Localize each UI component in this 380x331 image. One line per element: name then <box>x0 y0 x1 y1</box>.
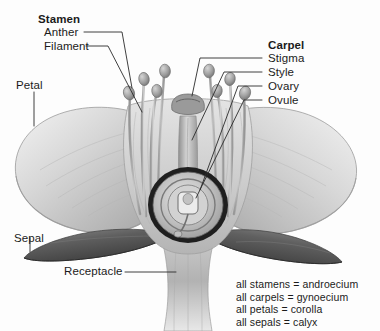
leader-filament <box>86 46 142 112</box>
leader-anther <box>84 32 132 88</box>
label-receptacle: Receptacle <box>64 265 123 278</box>
label-ovary: Ovary <box>268 80 299 93</box>
legend-line-corolla: all petals = corolla <box>236 303 358 316</box>
label-carpel: Carpel <box>268 39 304 52</box>
legend-line-androecium: all stamens = androecium <box>236 278 358 291</box>
label-petal: Petal <box>16 79 43 92</box>
stigma-shape <box>172 94 205 115</box>
legend-line-gynoecium: all carpels = gynoecium <box>236 291 358 304</box>
sepal-left-shape <box>24 229 162 261</box>
label-stamen: Stamen <box>38 13 80 26</box>
label-ovule: Ovule <box>268 94 299 107</box>
label-filament: Filament <box>44 40 89 53</box>
ovary-shape <box>148 167 228 243</box>
label-stigma: Stigma <box>268 52 304 65</box>
label-style: Style <box>268 66 294 79</box>
sepal-right-shape <box>212 230 342 264</box>
terminology-legend: all stamens = androecium all carpels = g… <box>236 278 358 328</box>
flower-anatomy-figure: Stamen Anther Filament Petal Sepal Recep… <box>0 0 380 331</box>
label-sepal: Sepal <box>14 232 44 245</box>
legend-line-calyx: all sepals = calyx <box>236 316 358 329</box>
label-anther: Anther <box>44 26 78 39</box>
